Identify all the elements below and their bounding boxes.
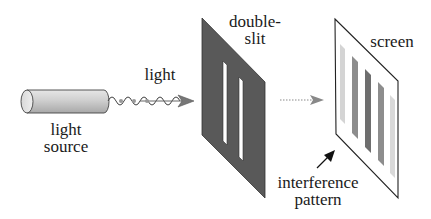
pattern-pointer-arrow xyxy=(317,150,335,168)
double-slit-label-line2: slit xyxy=(220,30,290,47)
light-wave-arrow xyxy=(108,95,194,107)
fringe-4 xyxy=(378,82,384,166)
light-label: light xyxy=(135,66,185,83)
photon-dot xyxy=(119,99,123,103)
double-slit-label-line1: double- xyxy=(220,13,290,30)
light-source-label-line2: source xyxy=(36,138,96,155)
propagation-arrow xyxy=(280,95,324,105)
light-source-label-line1: light xyxy=(36,121,96,138)
photon-dot xyxy=(132,99,136,103)
double-slit-diagram: light source light double- slit screen i… xyxy=(0,0,431,219)
light-source-cylinder xyxy=(21,90,109,113)
fringe-5 xyxy=(390,95,395,178)
fringe-3 xyxy=(365,69,371,153)
slit-2 xyxy=(239,77,243,161)
light-source-label: light source xyxy=(36,121,96,155)
slit-1 xyxy=(223,61,227,145)
double-slit-label: double- slit xyxy=(220,13,290,47)
fringe-2 xyxy=(352,56,358,139)
interference-pattern-label: interference pattern xyxy=(268,174,368,208)
photon-dot xyxy=(145,99,149,103)
interference-label-line1: interference xyxy=(268,174,368,191)
fringe-1 xyxy=(340,44,345,124)
screen-label: screen xyxy=(362,33,422,50)
interference-label-line2: pattern xyxy=(268,191,368,208)
